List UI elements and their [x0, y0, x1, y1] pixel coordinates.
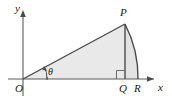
y-axis-arrowhead	[20, 10, 26, 17]
x-axis-label: x	[158, 82, 163, 93]
angle-label-theta: θ	[48, 67, 53, 77]
y-axis-label: y	[15, 3, 20, 14]
point-label-q: Q	[119, 83, 127, 94]
x-axis-arrowhead	[147, 76, 154, 82]
geometry-canvas	[0, 0, 172, 103]
circular-segment-fill	[125, 24, 138, 79]
point-label-r: R	[134, 83, 141, 94]
point-label-o: O	[15, 83, 23, 94]
geometry-figure: y x O P Q R θ	[0, 0, 172, 103]
point-label-p: P	[120, 7, 127, 18]
